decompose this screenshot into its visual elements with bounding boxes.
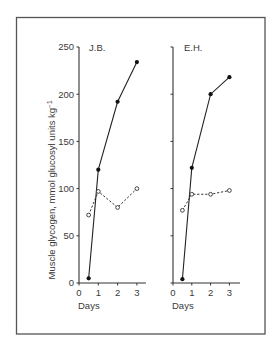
panel-label: J.B.	[89, 42, 105, 53]
glycogen-chart-figure: Muscle glycogen, mmol glucosyl units kg−…	[0, 0, 280, 351]
x-tick-label: 2	[115, 287, 120, 298]
y-tick-label: 150	[58, 136, 74, 147]
open-data-point	[135, 187, 139, 191]
x-tick-label: 0	[76, 287, 81, 298]
open-data-point	[96, 190, 100, 194]
filled-data-point	[87, 276, 91, 280]
open-data-point	[209, 192, 213, 196]
panel-eh: 0123DaysE.H.	[170, 42, 240, 311]
y-tick-label: 100	[58, 183, 74, 194]
y-axis-label-main: Muscle glycogen, mmol glucosyl units kg	[46, 108, 57, 280]
filled-data-point	[96, 168, 100, 172]
y-tick-label: 250	[58, 41, 74, 52]
filled-series-line	[182, 77, 229, 279]
x-tick-label: 1	[96, 287, 101, 298]
y-tick-label: 0	[69, 277, 74, 288]
filled-series-line	[89, 62, 137, 278]
filled-data-point	[190, 166, 194, 170]
open-data-point	[228, 189, 232, 193]
filled-data-point	[209, 92, 213, 96]
x-axis-label: Days	[78, 300, 100, 311]
filled-data-point	[227, 75, 231, 79]
x-tick-label: 3	[134, 287, 139, 298]
x-tick-label: 1	[189, 287, 194, 298]
filled-data-point	[135, 60, 139, 64]
x-tick-label: 0	[170, 287, 175, 298]
y-axis-label: Muscle glycogen, mmol glucosyl units kg−…	[46, 100, 58, 279]
panel-label: E.H.	[184, 42, 202, 53]
open-data-point	[181, 208, 185, 212]
x-axis-label: Days	[172, 300, 194, 311]
filled-data-point	[180, 277, 184, 281]
panel-jb: 0501001502002500123DaysJ.B.	[58, 41, 146, 311]
open-data-point	[87, 213, 91, 217]
x-tick-label: 2	[208, 287, 213, 298]
open-data-point	[116, 206, 120, 210]
filled-data-point	[116, 100, 120, 104]
y-axis-label-sup: −1	[46, 100, 53, 108]
y-tick-label: 50	[63, 230, 74, 241]
x-tick-label: 3	[227, 287, 232, 298]
y-tick-label: 200	[58, 89, 74, 100]
open-data-point	[190, 192, 194, 196]
